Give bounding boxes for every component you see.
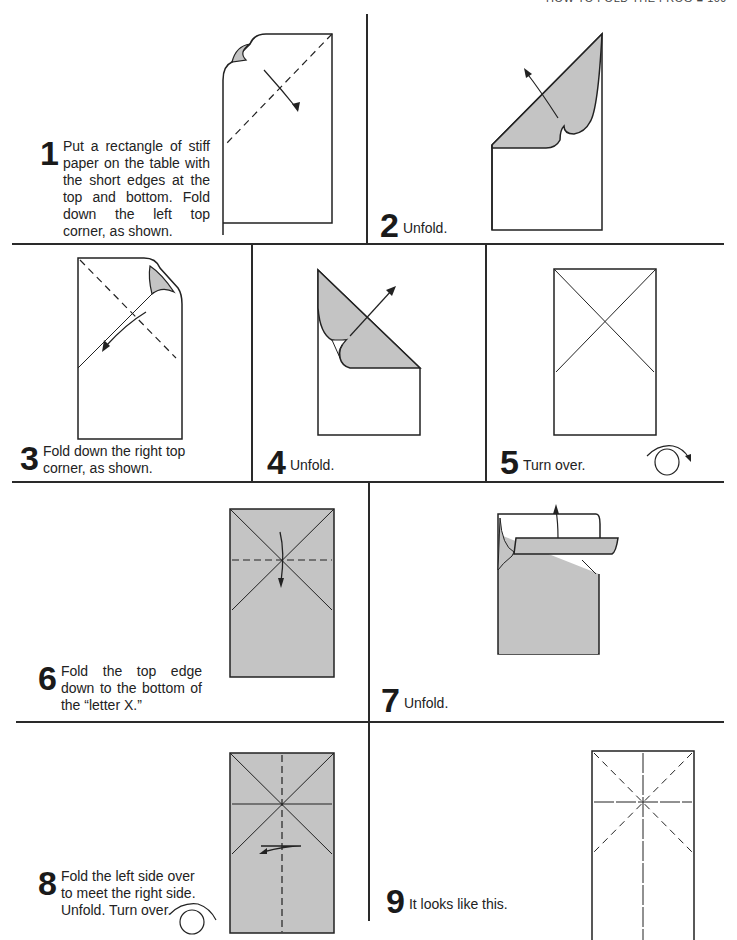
step-number: 1 — [40, 138, 59, 168]
step-text: Put a rectangle of stiff paper on the ta… — [63, 138, 210, 240]
step3-diagram — [76, 256, 186, 446]
step2-diagram — [490, 30, 610, 230]
step4-diagram — [316, 268, 436, 468]
turn-over-icon — [168, 900, 228, 930]
step1-diagram — [222, 30, 362, 230]
step-9: 9 It looks like this. — [386, 886, 508, 916]
divider-row3-bottom — [16, 721, 724, 723]
step9-diagram — [591, 750, 701, 940]
step-text: Fold down the right top corner, as shown… — [43, 443, 203, 477]
divider-row1-bottom — [12, 243, 724, 245]
step-number: 4 — [267, 447, 286, 477]
step-text: It looks like this. — [409, 896, 508, 913]
turn-over-icon — [645, 442, 695, 476]
divider-row3-vertical — [368, 482, 370, 921]
step8-diagram — [229, 752, 339, 932]
step-3: 3 Fold down the right top corner, as sho… — [20, 443, 203, 477]
divider-row2-vertical-b — [485, 244, 487, 483]
divider-row2-vertical-a — [251, 244, 253, 483]
step-text: Turn over. — [523, 457, 586, 474]
step5-diagram — [552, 268, 662, 438]
divider-row1-vertical — [366, 14, 368, 245]
step-1: 1 Put a rectangle of stiff paper on the … — [40, 138, 210, 240]
step-5: 5 Turn over. — [500, 447, 585, 477]
step-text: Fold the top edge down to the bottom of … — [61, 663, 202, 714]
step7-diagram — [496, 504, 626, 654]
step-6: 6 Fold the top edge down to the bottom o… — [38, 663, 202, 714]
step-7: 7 Unfold. — [381, 685, 448, 715]
step-number: 7 — [381, 685, 400, 715]
step-number: 3 — [20, 443, 39, 473]
step-number: 2 — [380, 210, 399, 240]
step-text: Unfold. — [403, 220, 447, 237]
step-text: Unfold. — [290, 457, 334, 474]
step-number: 9 — [386, 886, 405, 916]
step-4: 4 Unfold. — [267, 447, 334, 477]
page-header: HOW TO FOLD THE FROG ■ 109 — [546, 0, 727, 4]
step-number: 5 — [500, 447, 519, 477]
step-2: 2 Unfold. — [380, 210, 447, 240]
step6-diagram — [229, 508, 339, 683]
step-text: Unfold. — [404, 695, 448, 712]
step-number: 8 — [38, 868, 57, 898]
step-number: 6 — [38, 663, 57, 693]
